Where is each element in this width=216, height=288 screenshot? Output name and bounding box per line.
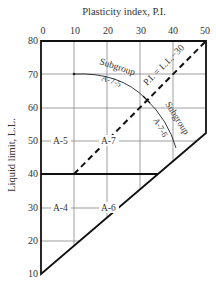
x-tick-0: 0 — [41, 25, 46, 36]
x-tick-10: 10 — [70, 25, 80, 36]
x-tick-labels: 0 10 20 30 40 50 — [41, 25, 211, 36]
x-tick-50: 50 — [200, 25, 210, 36]
x-tick-40: 40 — [168, 25, 178, 36]
y-tick-10: 10 — [28, 268, 38, 279]
a-6-label: A-6 — [101, 203, 116, 213]
plasticity-chart: Plasticity index, P.I. 0 10 20 30 40 50 … — [0, 0, 216, 288]
chart-boundary — [41, 41, 206, 274]
subgroup-start-dot — [73, 73, 76, 76]
y-tick-20: 20 — [28, 235, 38, 246]
x-tick-20: 20 — [103, 25, 113, 36]
y-tick-40: 40 — [28, 168, 38, 179]
grid-lines — [41, 41, 206, 274]
a-5-label: A-5 — [53, 136, 68, 146]
y-tick-80: 80 — [28, 35, 38, 46]
x-axis-title: Plasticity index, P.I. — [82, 6, 166, 17]
pi-line-label: P.I. = L.L.−30 — [141, 42, 186, 87]
y-tick-60: 60 — [28, 102, 38, 113]
y-tick-30: 30 — [28, 202, 38, 213]
a-4-label: A-4 — [53, 203, 68, 213]
x-tick-30: 30 — [136, 25, 146, 36]
y-tick-labels: 80 70 60 50 40 30 20 10 — [28, 35, 38, 279]
a-7-5-label: A-7-5 — [100, 72, 123, 88]
y-tick-50: 50 — [28, 135, 38, 146]
y-tick-70: 70 — [28, 69, 38, 80]
y-axis-title: Liquid limit, L.L. — [6, 118, 17, 192]
a-7-label: A-7 — [101, 136, 116, 146]
a-7-6-label: A-7-6 — [151, 116, 170, 139]
